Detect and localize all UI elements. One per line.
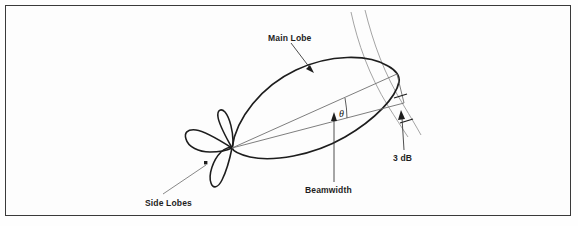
label-side-lobes: Side Lobes: [145, 198, 192, 208]
side-lobes-curves: [185, 110, 233, 187]
main-lobe-upper-edge: [232, 57, 399, 148]
figure-page: Main Lobe Side Lobes Beamwidth 3 dB θ: [0, 0, 578, 226]
beam-axis-lines: [232, 74, 404, 148]
main-lobe-leader: [291, 43, 314, 73]
label-3db: 3 dB: [393, 153, 412, 163]
main-lobe-curve: [232, 57, 399, 158]
label-beamwidth-angle-symbol: θ: [339, 109, 344, 119]
beam-tip-connector: [397, 74, 404, 103]
label-main-lobe: Main Lobe: [268, 33, 311, 43]
side-lobes-leader: [163, 161, 207, 194]
side-lobe-lower: [210, 148, 232, 187]
side-lobe-upper-right-small: [218, 110, 233, 148]
beamwidth-angle-arc: [345, 98, 347, 118]
three-db-leader: [402, 118, 404, 150]
main-lobe-lower-edge: [232, 82, 399, 159]
three-db-arrow-head: [398, 110, 405, 120]
three-db-tick-top: [394, 94, 407, 98]
beamwidth-leader: [331, 112, 337, 182]
beamwidth-arrow-head: [331, 112, 337, 121]
side-lobes-leader-dot: [204, 161, 207, 164]
label-beamwidth: Beamwidth: [305, 185, 352, 195]
reference-arcs: [351, 10, 421, 137]
